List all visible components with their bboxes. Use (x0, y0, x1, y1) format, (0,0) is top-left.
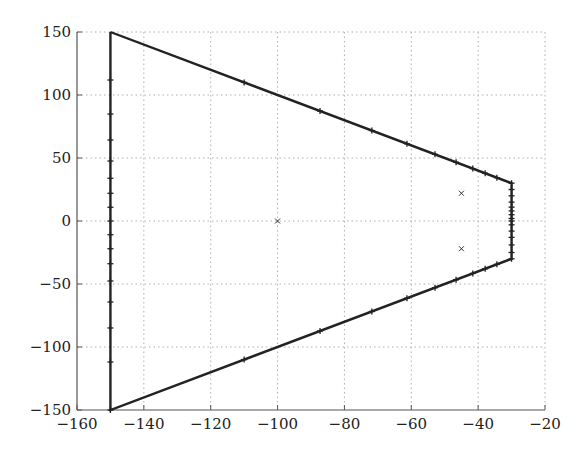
marker-plus (107, 407, 113, 413)
marker-plus (494, 261, 500, 267)
marker-plus (107, 261, 113, 267)
y-tick-label: 150 (42, 23, 71, 41)
marker-plus (509, 256, 515, 262)
marker-plus (509, 242, 515, 248)
marker-plus (432, 285, 438, 291)
chart: −160−140−120−100−80−60−40−20 −150−100−50… (0, 0, 583, 456)
marker-plus (509, 228, 515, 234)
x-tick-label: −20 (529, 415, 561, 433)
marker-plus (317, 108, 323, 114)
marker-plus (107, 218, 113, 224)
marker-plus (432, 151, 438, 157)
marker-plus (404, 295, 410, 301)
x-tick-label: −80 (329, 415, 361, 433)
marker-plus (509, 180, 515, 186)
plot-area (107, 32, 514, 413)
marker-plus (107, 232, 113, 238)
marker-plus (369, 128, 375, 134)
marker-plus (107, 190, 113, 196)
marker-plus (470, 270, 476, 276)
y-tick-label: 50 (52, 149, 71, 167)
marker-plus (107, 204, 113, 210)
marker-plus (107, 158, 113, 164)
x-tick-label: −140 (123, 415, 164, 433)
marker-plus (107, 137, 113, 143)
marker-plus (470, 166, 476, 172)
marker-plus (107, 77, 113, 83)
marker-plus (453, 159, 459, 165)
marker-plus (404, 141, 410, 147)
marker-plus (509, 187, 515, 193)
marker-plus (107, 299, 113, 305)
x-tick-labels: −160−140−120−100−80−60−40−20 (56, 415, 560, 433)
marker-plus (509, 250, 515, 256)
marker-plus (482, 266, 488, 272)
marker-plus (241, 79, 247, 85)
y-tick-label: 100 (42, 86, 71, 104)
x-tick-label: −100 (257, 415, 298, 433)
marker-plus (241, 357, 247, 363)
x-tick-label: −40 (462, 415, 494, 433)
grid-lines (77, 32, 545, 410)
marker-plus (482, 170, 488, 176)
marker-plus (107, 325, 113, 331)
marker-plus (317, 328, 323, 334)
x-tick-label: −60 (395, 415, 427, 433)
y-tick-labels: −150−100−50050100150 (30, 23, 71, 419)
x-tick-label: −120 (190, 415, 231, 433)
marker-plus (509, 193, 515, 199)
y-tick-label: −50 (39, 275, 71, 293)
marker-plus (453, 277, 459, 283)
marker-x (459, 246, 464, 251)
y-tick-label: 0 (61, 212, 71, 230)
marker-x (459, 191, 464, 196)
marker-plus (509, 234, 515, 240)
marker-plus (369, 308, 375, 314)
marker-plus (494, 175, 500, 181)
y-tick-label: −150 (30, 401, 71, 419)
marker-plus (107, 278, 113, 284)
marker-plus (107, 175, 113, 181)
marker-plus (509, 222, 515, 228)
marker-plus (107, 111, 113, 117)
y-tick-label: −100 (30, 338, 71, 356)
marker-plus (107, 359, 113, 365)
marker-plus (107, 246, 113, 252)
